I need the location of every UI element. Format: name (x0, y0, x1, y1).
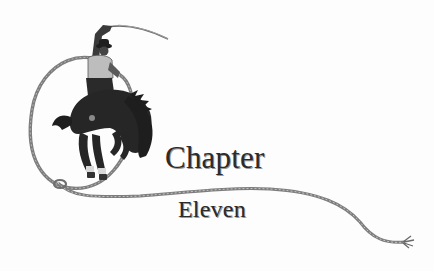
bronc-rider-lasso-illustration (0, 0, 434, 271)
chapter-heading-line1: Chapter (165, 140, 265, 176)
bucking-horse-icon (52, 90, 153, 180)
chapter-heading-line2: Eleven (178, 196, 246, 223)
